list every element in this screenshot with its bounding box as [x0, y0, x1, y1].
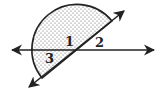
diagram-canvas: 1 2 3 — [0, 0, 165, 98]
angle-1-label: 1 — [65, 34, 74, 49]
geometry-diagram: 1 2 3 — [0, 0, 165, 98]
angle-3-label: 3 — [45, 51, 54, 66]
angle-2-label: 2 — [95, 35, 104, 50]
